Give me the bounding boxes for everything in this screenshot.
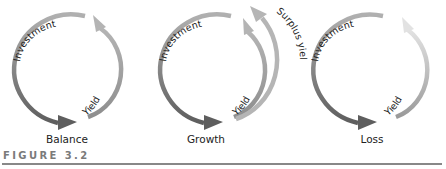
investment-label: Investment <box>11 18 57 62</box>
investment-label: Investment <box>157 18 203 62</box>
investment-arrow <box>14 14 85 130</box>
cycle-figure: Investment Yield Investment Yield Surplu… <box>0 0 446 169</box>
yield-label: Yield <box>79 94 102 118</box>
investment-label: Investment <box>309 18 355 62</box>
figure-rule <box>2 163 442 165</box>
investment-arrow <box>313 15 383 130</box>
panel-balance: Investment Yield <box>11 14 121 130</box>
panel-loss: Investment Yield <box>309 15 427 130</box>
figure-label: FIGURE 3.2 <box>3 150 90 161</box>
caption-loss: Loss <box>332 133 412 145</box>
caption-growth: Growth <box>166 133 246 145</box>
caption-balance: Balance <box>27 133 107 145</box>
investment-arrow <box>160 14 231 130</box>
